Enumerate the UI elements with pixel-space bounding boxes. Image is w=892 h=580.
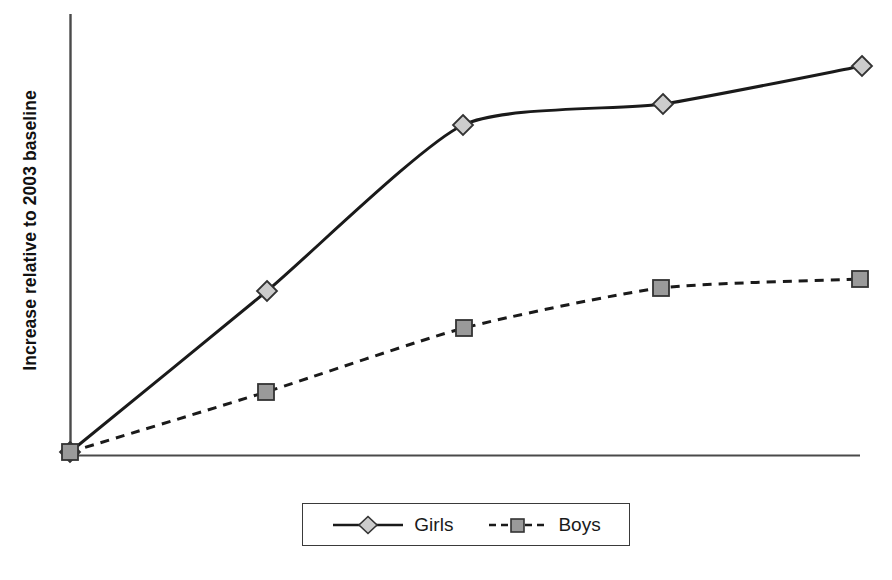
data-point-marker bbox=[852, 271, 868, 287]
data-point-marker bbox=[653, 94, 673, 114]
series-markers-boys bbox=[62, 271, 868, 460]
legend-entry-boys: Boys bbox=[487, 514, 600, 536]
legend-label-boys: Boys bbox=[558, 515, 600, 534]
series-line-boys bbox=[70, 279, 860, 452]
data-point-marker bbox=[456, 320, 472, 336]
data-point-marker bbox=[653, 280, 669, 296]
data-point-marker bbox=[453, 115, 473, 135]
legend-key-girls-diamond-icon bbox=[331, 514, 405, 536]
data-point-marker bbox=[852, 56, 872, 76]
plot-area bbox=[0, 0, 892, 580]
data-point-marker bbox=[258, 384, 274, 400]
legend-entry-girls: Girls bbox=[331, 514, 453, 536]
data-point-marker bbox=[62, 444, 78, 460]
legend-label-girls: Girls bbox=[414, 515, 453, 534]
line-chart-figure: Increase relative to 2003 baseline Girls bbox=[0, 0, 892, 580]
series-markers-girls bbox=[60, 56, 872, 462]
chart-legend: Girls Boys bbox=[302, 503, 630, 546]
legend-key-boys-square-icon bbox=[487, 514, 549, 536]
